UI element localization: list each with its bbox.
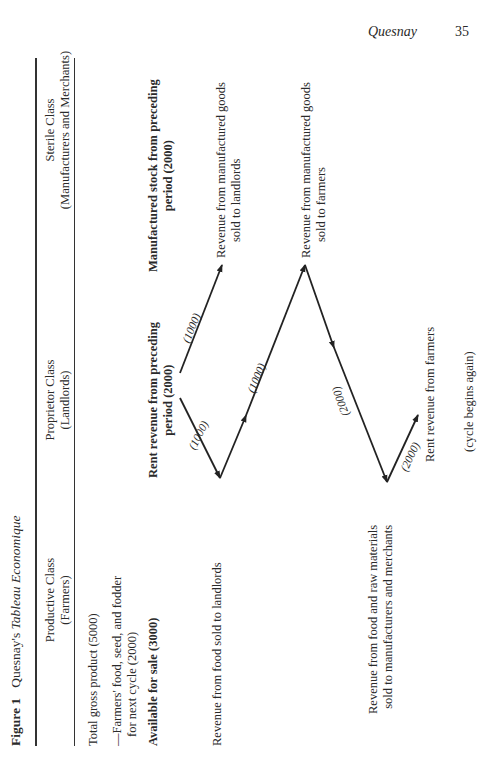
arrow-sterile-to-productive xyxy=(305,265,333,345)
arrow-productive-to-sterile xyxy=(220,418,245,478)
